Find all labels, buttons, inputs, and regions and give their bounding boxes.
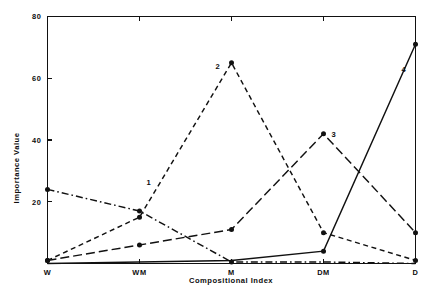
y-axis-title: Importance Value — [12, 133, 21, 204]
y-tick-label-60: 60 — [32, 74, 41, 83]
data-point-3-WM — [137, 242, 142, 247]
x-tick-label-W: W — [44, 268, 52, 277]
importance-value-line-chart: 20406080 WWMMDMD 1234 Importance Value C… — [0, 0, 428, 290]
y-tick-label-80: 80 — [32, 12, 41, 21]
x-tick-label-D: D — [413, 268, 419, 277]
data-point-2-DM — [321, 230, 326, 235]
data-point-4-DM — [321, 249, 326, 254]
data-point-4-D — [413, 42, 418, 47]
chart-background — [0, 0, 428, 290]
y-tick-label-20: 20 — [32, 198, 41, 207]
data-point-2-D — [413, 258, 418, 263]
data-point-2-WM — [137, 215, 142, 220]
x-tick-label-WM: WM — [132, 268, 146, 277]
data-point-1-WM — [137, 209, 142, 214]
data-point-1-W — [45, 187, 50, 192]
x-tick-label-DM: DM — [317, 268, 330, 277]
data-point-2-M — [229, 60, 234, 65]
data-point-3-D — [413, 230, 418, 235]
y-tick-label-40: 40 — [32, 136, 41, 145]
data-point-3-DM — [321, 131, 326, 136]
data-point-3-M — [229, 227, 234, 232]
series-label-3: 3 — [331, 130, 335, 139]
series-label-2: 2 — [215, 62, 219, 71]
data-point-3-W — [45, 258, 50, 263]
x-axis-title: Compositional Index — [189, 276, 273, 285]
chart-figure: 20406080 WWMMDMD 1234 Importance Value C… — [0, 0, 428, 290]
